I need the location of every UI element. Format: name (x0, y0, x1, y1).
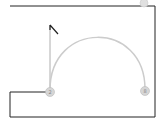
diagram-canvas: 2 8 (0, 0, 161, 121)
frame-border (10, 6, 155, 117)
pointer-tip-icon (50, 25, 58, 34)
node-left[interactable]: 2 (46, 88, 55, 97)
node-right-label: 8 (143, 88, 146, 94)
node-right[interactable]: 8 (141, 87, 150, 96)
node-left-label: 2 (48, 89, 51, 95)
arc-edge (50, 37, 145, 90)
node-top[interactable] (140, 0, 148, 7)
